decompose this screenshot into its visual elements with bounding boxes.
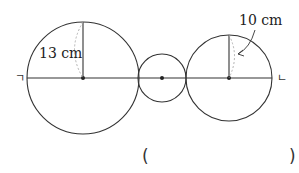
middle-center-dot [160, 76, 164, 80]
point-label-left: ㄱ [15, 72, 25, 85]
point-label-right: ㄴ [277, 72, 287, 85]
left-radius-label: 13 cm [39, 45, 82, 61]
answer-paren-close: ) [289, 146, 296, 166]
right-radius-label: 10 cm [239, 12, 282, 28]
right-radius-arc [229, 35, 235, 78]
answer-blank[interactable] [150, 146, 288, 166]
answer-paren-open: ( [142, 146, 149, 166]
circles-diagram: 13 cm 10 cm ㄱ ㄴ ( ) [0, 0, 299, 173]
